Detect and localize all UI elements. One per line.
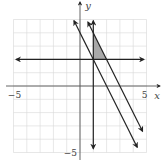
chart: x y −5 5 −5 bbox=[0, 0, 166, 164]
y-tick-label-neg5: −5 bbox=[64, 148, 78, 158]
y-axis-label: y bbox=[84, 0, 91, 11]
x-tick-label-neg5: −5 bbox=[8, 90, 22, 100]
line-1 bbox=[74, 21, 137, 147]
x-axis-label: x bbox=[154, 90, 160, 101]
x-tick-label-5: 5 bbox=[142, 90, 148, 100]
line-2 bbox=[88, 22, 143, 131]
